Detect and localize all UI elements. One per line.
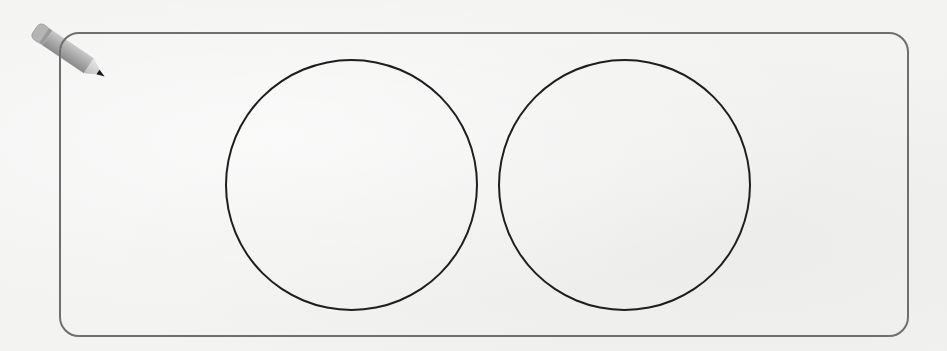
worksheet-page	[0, 0, 947, 351]
venn-circle-right[interactable]	[498, 59, 751, 311]
venn-circle-left[interactable]	[225, 59, 478, 311]
answer-box	[59, 32, 909, 337]
